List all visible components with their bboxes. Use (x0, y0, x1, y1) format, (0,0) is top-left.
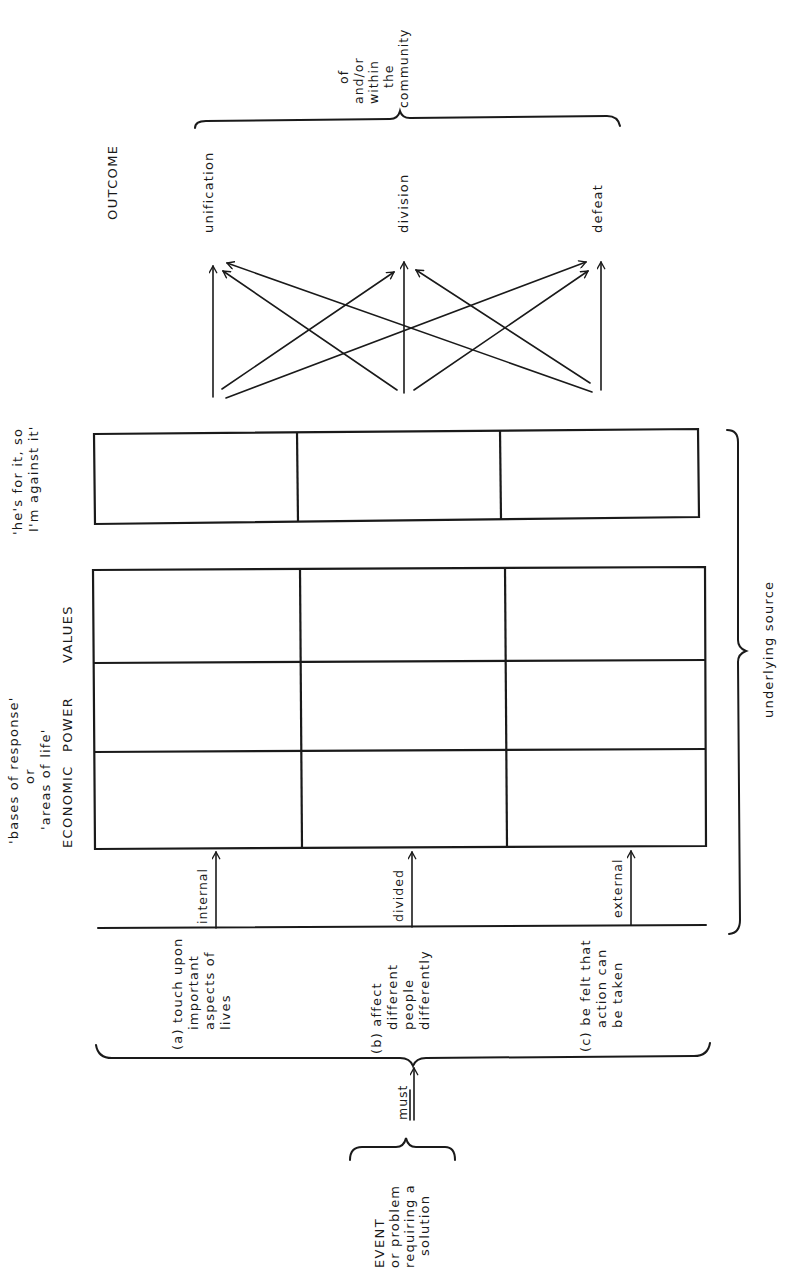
bases-grid-border (93, 567, 706, 849)
internal-label: internal (195, 868, 210, 924)
personal-grid-border (94, 429, 699, 524)
outcome-unification: unification (201, 152, 216, 234)
arrow-values-unification (227, 263, 592, 392)
condition-a: (a) touch upon important aspects of live… (170, 937, 233, 1050)
bases-column-power: POWER (60, 697, 75, 752)
condition-c: (c) be felt that action can be taken (578, 939, 625, 1052)
condition-b-line-4: differently (417, 950, 432, 1030)
outcome-brace (195, 111, 620, 128)
condition-a-line-3: aspects of (202, 951, 217, 1030)
event-title: EVENT (372, 1218, 387, 1268)
underlying-source: underlying source (727, 430, 776, 934)
event-subtitle-1: or problem (387, 1185, 402, 1268)
condition-b-line-1: (b) affect (369, 982, 384, 1054)
outcome-qualifier-5: community (396, 29, 411, 109)
must-connector: must (395, 1068, 414, 1120)
bases-header: 'bases of response' or 'areas of life' E… (6, 605, 75, 848)
bases-grid-row-divider-1 (93, 660, 705, 663)
arrow-power-defeat (414, 271, 588, 390)
bases-title-3: 'areas of life' (38, 728, 53, 830)
outcome-qualifier-2: and/or (351, 57, 366, 104)
condition-arrows: internal divided external (195, 851, 631, 928)
outcome-arrows (213, 262, 601, 398)
bases-grid-col-divider-2 (505, 568, 507, 847)
condition-b: (b) affect different people differently (369, 950, 432, 1054)
underlying-brace (727, 430, 746, 934)
condition-b-line-2: different (385, 964, 400, 1030)
arrow-economic-division (222, 272, 394, 389)
outcome-qualifier-1: of (336, 70, 351, 84)
bases-column-economic: ECONOMIC (60, 765, 75, 848)
outcome-defeat: defeat (590, 184, 605, 233)
event-subtitle-2: requiring a (402, 1184, 417, 1268)
event-block: EVENT or problem requiring a solution (350, 1138, 455, 1268)
condition-a-line-2: important (186, 955, 201, 1030)
diagram-canvas: EVENT or problem requiring a solution mu… (0, 0, 789, 1280)
divided-label: divided (391, 869, 406, 922)
bases-column-values: VALUES (60, 605, 75, 663)
bases-title-2: or (22, 768, 37, 784)
condition-c-line-3: be taken (610, 962, 625, 1028)
outcome-division: division (396, 174, 411, 233)
arrow-power-unification (223, 271, 397, 390)
condition-c-line-2: action can (594, 948, 609, 1028)
underlying-label: underlying source (761, 581, 776, 718)
condition-b-line-3: people (401, 979, 416, 1030)
outcome-qualifier-3: within (366, 60, 381, 104)
bases-title-1: 'bases of response' (6, 696, 21, 844)
conditions-brace (96, 1043, 710, 1066)
must-label: must (395, 1084, 410, 1120)
conditions-baseline (98, 925, 706, 928)
personal-grid-divider-1 (297, 432, 298, 522)
outcome-title: OUTCOME (105, 145, 120, 220)
external-label: external (610, 859, 625, 918)
condition-a-line-4: lives (218, 994, 233, 1030)
event-brace (350, 1138, 455, 1160)
bases-grid-row-divider-2 (94, 749, 706, 752)
personal-quote-1: 'he's for it, so (10, 428, 25, 535)
personal-quote-2: I'm against it' (26, 425, 41, 532)
outcome-qualifier-4: the (381, 64, 396, 88)
event-subtitle-3: solution (417, 1195, 432, 1256)
bases-grid-col-divider-1 (300, 569, 302, 848)
condition-a-line-1: (a) touch upon (170, 937, 185, 1050)
outcome-block: OUTCOME unification division defeat of a… (105, 29, 620, 234)
bases-grid (93, 567, 706, 849)
condition-c-line-1: (c) be felt that (578, 939, 593, 1052)
personal-grid-divider-2 (500, 430, 501, 519)
personal-grid (94, 429, 699, 524)
personal-header: 'he's for it, so I'm against it' (10, 425, 41, 535)
